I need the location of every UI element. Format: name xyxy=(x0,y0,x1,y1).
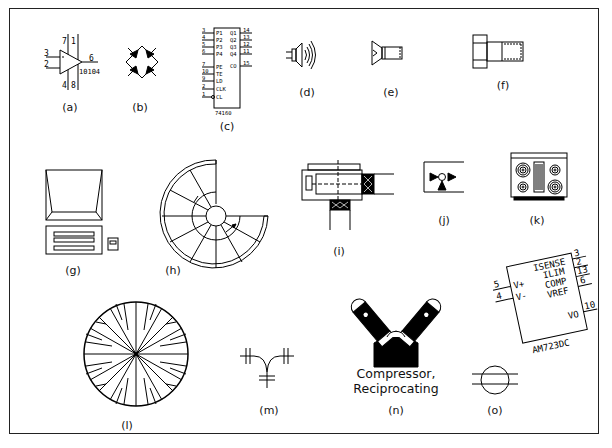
svg-text:13: 13 xyxy=(243,34,250,40)
op-amp-icon: 7 1 3 2 6 4 8 10104 xyxy=(40,32,110,92)
svg-text:10104: 10104 xyxy=(79,68,100,76)
svg-text:P2: P2 xyxy=(216,37,223,43)
svg-text:8: 8 xyxy=(71,81,76,90)
svg-text:6: 6 xyxy=(202,48,205,54)
caption-k: (k) xyxy=(517,214,557,227)
compressor-label-line2: Reciprocating xyxy=(346,381,446,396)
svg-text:14: 14 xyxy=(243,27,250,33)
caption-g: (g) xyxy=(53,264,93,277)
caption-e: (e) xyxy=(371,86,411,99)
caption-m: (m) xyxy=(249,404,289,417)
caption-j: (j) xyxy=(424,214,464,227)
caption-o: (o) xyxy=(475,404,515,417)
ic-chip-icon: 3P1 4P2 5P3 6P4 7PE 10TE 9LD 2CLK 1CL 14… xyxy=(200,26,270,118)
caption-a: (a) xyxy=(50,101,90,114)
caption-i: (i) xyxy=(319,245,359,258)
svg-text:CLK: CLK xyxy=(216,86,227,92)
svg-text:V+: V+ xyxy=(513,279,526,291)
svg-text:74160: 74160 xyxy=(215,110,232,116)
caption-b: (b) xyxy=(120,101,160,114)
svg-text:Q1: Q1 xyxy=(230,30,237,36)
ic-regulator-icon: 5 4 V+ V- 3 2 13 6 10 ISENSE ILIM COMP V… xyxy=(488,244,598,362)
svg-text:5: 5 xyxy=(202,41,205,47)
pipe-tee-icon xyxy=(240,344,294,390)
svg-text:6: 6 xyxy=(89,54,94,63)
hex-bolt-icon xyxy=(472,34,528,70)
caption-l: (l) xyxy=(107,419,147,432)
svg-text:V-: V- xyxy=(515,290,528,302)
caption-n: (n) xyxy=(376,404,416,417)
svg-text:1: 1 xyxy=(202,91,205,97)
valve-actuator-icon xyxy=(298,160,394,230)
speaker-icon xyxy=(286,40,322,70)
svg-text:1: 1 xyxy=(71,37,76,46)
caption-h: (h) xyxy=(153,264,193,277)
svg-text:10: 10 xyxy=(202,68,209,74)
caption-d: (d) xyxy=(287,86,327,99)
cooktop-range-icon xyxy=(510,152,568,202)
svg-text:3: 3 xyxy=(202,27,205,33)
spiral-staircase-icon xyxy=(160,158,270,270)
svg-text:P3: P3 xyxy=(216,44,223,50)
caption-c: (c) xyxy=(207,120,247,133)
three-way-valve-icon xyxy=(424,162,464,192)
svg-text:VO: VO xyxy=(567,309,580,321)
flat-head-screw-icon xyxy=(370,40,406,66)
svg-text:6: 6 xyxy=(579,275,586,286)
reciprocating-compressor-icon xyxy=(354,305,438,367)
compressor-label: Compressor, Reciprocating xyxy=(346,366,446,396)
svg-text:CO: CO xyxy=(230,63,237,69)
svg-text:11: 11 xyxy=(243,48,250,54)
svg-text:4: 4 xyxy=(62,81,67,90)
svg-text:5: 5 xyxy=(493,279,500,290)
svg-text:CL: CL xyxy=(216,94,223,100)
circle-lines-icon xyxy=(472,364,518,396)
compressor-label-line1: Compressor, xyxy=(346,366,446,381)
svg-text:PE: PE xyxy=(216,64,223,70)
svg-text:TE: TE xyxy=(216,71,223,77)
svg-text:7: 7 xyxy=(202,61,205,67)
svg-text:4: 4 xyxy=(495,291,502,302)
svg-text:Q2: Q2 xyxy=(230,37,237,43)
svg-text:Q3: Q3 xyxy=(230,44,237,50)
svg-text:P4: P4 xyxy=(216,51,223,57)
svg-text:2: 2 xyxy=(202,83,205,89)
svg-text:P1: P1 xyxy=(216,30,223,36)
svg-text:Q4: Q4 xyxy=(230,51,237,57)
svg-text:7: 7 xyxy=(62,37,67,46)
svg-text:3: 3 xyxy=(44,49,49,58)
computer-icon xyxy=(44,168,124,256)
svg-text:9: 9 xyxy=(202,75,205,81)
svg-text:12: 12 xyxy=(243,41,250,47)
caption-f: (f) xyxy=(483,79,523,92)
tree-plan-icon xyxy=(82,300,190,408)
svg-text:15: 15 xyxy=(243,60,250,66)
svg-text:4: 4 xyxy=(202,34,206,40)
diode-bridge-icon xyxy=(124,44,160,80)
svg-text:2: 2 xyxy=(44,60,49,69)
svg-text:LD: LD xyxy=(216,78,223,84)
